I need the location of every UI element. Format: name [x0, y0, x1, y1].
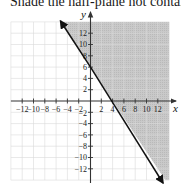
svg-text:6: 6 — [83, 63, 87, 72]
svg-text:4: 4 — [83, 74, 87, 83]
svg-text:2: 2 — [83, 85, 87, 94]
svg-text:−8: −8 — [41, 105, 50, 114]
svg-text:−6: −6 — [78, 131, 87, 140]
svg-text:−2: −2 — [78, 109, 87, 118]
svg-text:−4: −4 — [63, 105, 72, 114]
svg-text:−8: −8 — [78, 142, 87, 151]
svg-text:10: 10 — [143, 105, 151, 114]
svg-text:−4: −4 — [78, 119, 87, 128]
svg-text:−10: −10 — [74, 153, 87, 162]
svg-text:6: 6 — [122, 105, 126, 114]
svg-text:−12: −12 — [74, 165, 87, 174]
svg-text:10: 10 — [79, 40, 87, 49]
svg-text:−6: −6 — [52, 105, 61, 114]
coordinate-plane: −12 −10 −8 −6 −4 −2 2 4 6 8 10 12 −12 −1… — [0, 0, 181, 190]
y-axis-label: y — [80, 8, 86, 20]
svg-text:−10: −10 — [27, 105, 40, 114]
svg-text:8: 8 — [133, 105, 137, 114]
svg-text:4: 4 — [111, 105, 115, 114]
svg-text:12: 12 — [79, 29, 87, 38]
svg-text:2: 2 — [99, 105, 103, 114]
svg-text:12: 12 — [154, 105, 162, 114]
x-axis-label: x — [172, 102, 178, 114]
